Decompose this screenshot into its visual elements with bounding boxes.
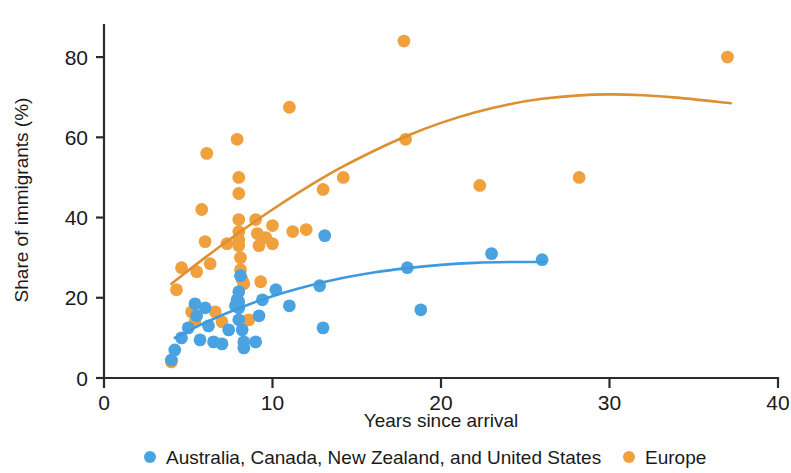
data-point xyxy=(721,51,734,64)
series-points-europe xyxy=(165,35,734,369)
x-tick-label: 0 xyxy=(98,391,110,414)
y-tick-label: 0 xyxy=(76,367,88,390)
data-point xyxy=(216,338,229,351)
data-point xyxy=(168,344,181,357)
x-tick-label: 10 xyxy=(261,391,284,414)
data-point xyxy=(200,147,213,160)
data-point xyxy=(398,35,411,48)
data-point xyxy=(283,101,296,114)
data-point xyxy=(232,285,245,298)
data-point xyxy=(231,133,244,146)
data-point xyxy=(234,251,247,264)
data-point xyxy=(232,213,245,226)
legend-label-europe: Europe xyxy=(645,447,706,468)
data-point xyxy=(414,303,427,316)
data-point xyxy=(234,269,247,282)
data-point xyxy=(204,257,217,270)
data-point xyxy=(286,225,299,238)
y-tick-label: 40 xyxy=(65,206,88,229)
data-point xyxy=(266,237,279,250)
x-axis-title: Years since arrival xyxy=(364,410,519,431)
data-point xyxy=(236,323,249,336)
data-point xyxy=(232,239,245,252)
chart-legend: Australia, Canada, New Zealand, and Unit… xyxy=(144,447,706,468)
x-tick-label: 40 xyxy=(766,391,789,414)
legend-label-anglosphere: Australia, Canada, New Zealand, and Unit… xyxy=(166,447,601,468)
legend-marker-europe xyxy=(623,451,635,463)
data-point xyxy=(170,283,183,296)
data-point xyxy=(317,321,330,334)
series-points-anglosphere xyxy=(165,229,548,366)
data-point xyxy=(253,309,266,322)
data-point xyxy=(199,301,212,314)
data-point xyxy=(266,219,279,232)
y-tick-label: 20 xyxy=(65,286,88,309)
x-axis-ticks: 010203040 xyxy=(98,378,790,414)
data-point xyxy=(232,187,245,200)
data-point xyxy=(237,342,250,355)
data-point xyxy=(485,247,498,260)
data-point xyxy=(300,223,313,236)
data-point xyxy=(536,253,549,266)
y-axis-title: Share of immigrants (%) xyxy=(11,98,32,303)
y-axis-ticks: 020406080 xyxy=(65,46,104,390)
data-point xyxy=(283,299,296,312)
data-point xyxy=(222,323,235,336)
data-point xyxy=(473,179,486,192)
legend-marker-anglosphere xyxy=(144,451,156,463)
trend-line-europe xyxy=(171,94,730,283)
data-point xyxy=(249,336,262,349)
trendline-europe xyxy=(171,94,730,283)
data-point xyxy=(194,333,207,346)
scatter-plot: Share of immigrants (%) 020406080 010203… xyxy=(0,0,791,473)
y-tick-label: 60 xyxy=(65,126,88,149)
data-point xyxy=(317,183,330,196)
chart-figure: Share of immigrants (%) 020406080 010203… xyxy=(0,0,791,473)
data-point xyxy=(318,229,331,242)
data-point xyxy=(573,171,586,184)
data-point xyxy=(232,171,245,184)
data-point xyxy=(254,275,267,288)
y-tick-label: 80 xyxy=(65,46,88,69)
data-point xyxy=(199,235,212,248)
x-tick-label: 30 xyxy=(598,391,621,414)
data-point xyxy=(195,203,208,216)
data-point xyxy=(337,171,350,184)
